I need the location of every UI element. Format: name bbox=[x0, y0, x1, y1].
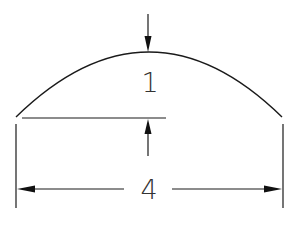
height-arrow-bottom bbox=[145, 119, 152, 156]
arrowhead-right-icon bbox=[264, 186, 282, 193]
arrowhead-left-icon bbox=[17, 186, 35, 193]
height-arrow-top bbox=[145, 14, 152, 52]
arc-dimension-diagram: 1 4 bbox=[0, 0, 295, 225]
width-label: 4 bbox=[140, 174, 157, 205]
height-label: 1 bbox=[141, 67, 158, 98]
arrowhead-up-icon bbox=[145, 119, 152, 134]
arrowhead-down-icon bbox=[145, 36, 152, 52]
